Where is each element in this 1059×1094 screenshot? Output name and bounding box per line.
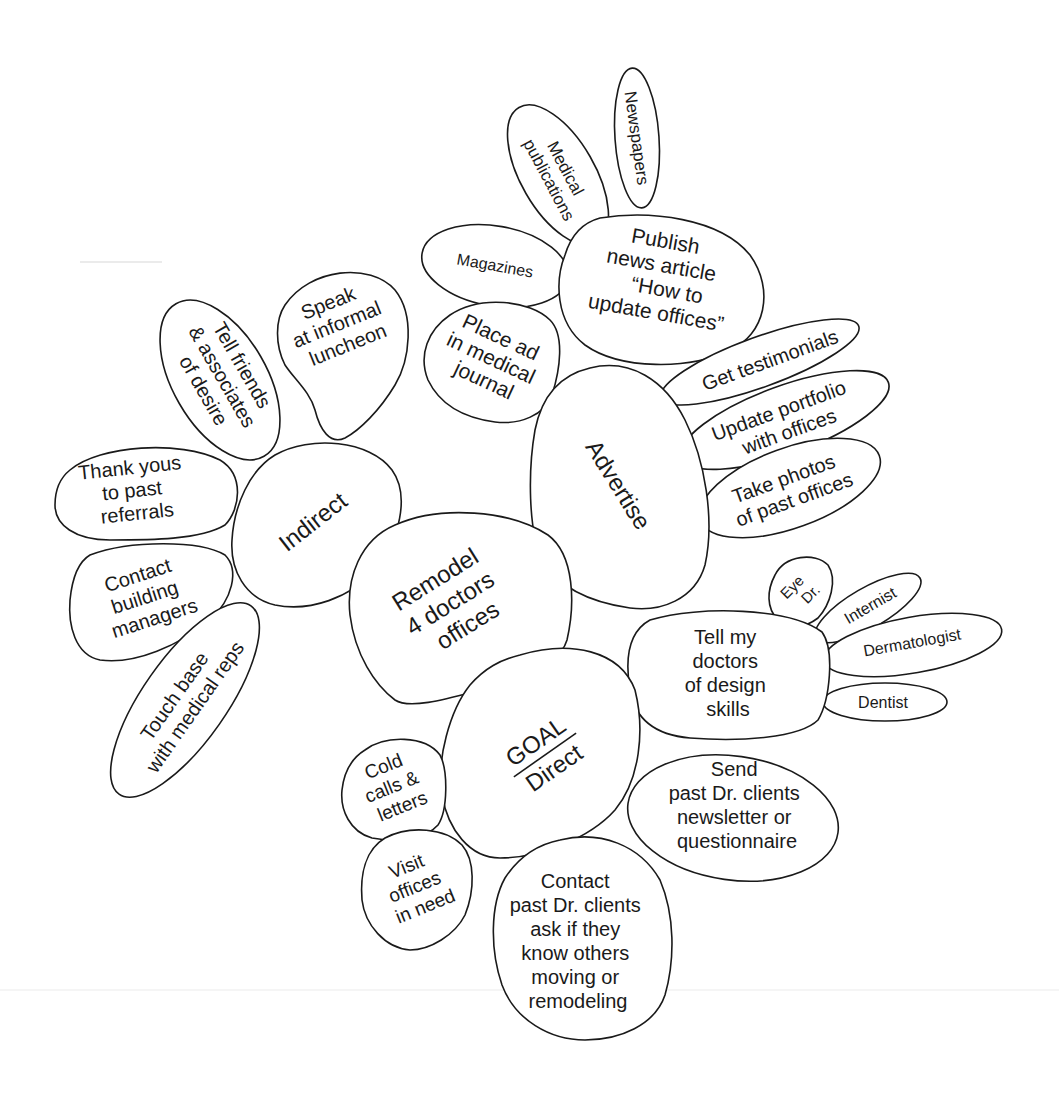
node-cold-calls: Cold calls & letters <box>342 739 446 839</box>
svg-text:Dentist: Dentist <box>858 694 908 711</box>
node-contact-clients: Contact past Dr. clients ask if they kno… <box>493 837 672 1040</box>
node-dentist: Dentist <box>823 683 947 721</box>
node-tell-doctors: Tell my doctors of design skills <box>628 611 830 740</box>
node-thank-yous: Thank yous to past referrals <box>55 448 238 540</box>
node-publish-article: Publish news article “How to update offi… <box>559 215 764 364</box>
node-place-ad: Place ad in medical journal <box>424 302 560 422</box>
node-visit-offices: Visit offices in need <box>362 830 473 950</box>
node-newspapers: Newspapers <box>610 67 664 210</box>
node-speak-luncheon: Speak at informal luncheon <box>278 272 409 439</box>
mind-map-diagram: Newspapers Medical publications Magazine… <box>0 0 1059 1094</box>
